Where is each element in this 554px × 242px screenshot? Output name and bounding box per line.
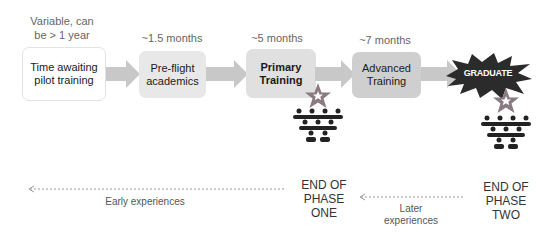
stage-box-preflight-academics: Pre-flight academics bbox=[139, 51, 206, 98]
later-line1: Later bbox=[380, 203, 442, 215]
phase-one-line2: PHASE bbox=[292, 192, 356, 206]
phase-two-line3: TWO bbox=[474, 208, 538, 222]
stage-4-label-line2: Training bbox=[362, 75, 411, 88]
stage-1-duration-line1: Variable, can bbox=[0, 14, 124, 28]
end-of-phase-two-label: END OF PHASE TWO bbox=[474, 180, 538, 222]
phase-two-line2: PHASE bbox=[474, 194, 538, 208]
later-line2: experiences bbox=[380, 215, 442, 227]
later-experiences-label: Later experiences bbox=[380, 203, 442, 227]
star-icon bbox=[304, 82, 332, 110]
stage-box-advanced-training: Advanced Training bbox=[352, 52, 421, 98]
arrow-right-icon bbox=[206, 60, 248, 88]
phase-two-line1: END OF bbox=[474, 180, 538, 194]
stage-4-duration: ~7 months bbox=[350, 33, 420, 47]
phase-one-line3: ONE bbox=[292, 206, 356, 220]
stage-2-duration: ~1.5 months bbox=[132, 31, 212, 45]
stage-4-label-line1: Advanced bbox=[362, 62, 411, 75]
people-group-icon bbox=[480, 115, 532, 151]
stage-1-duration-line2: be > 1 year bbox=[0, 28, 124, 42]
stage-1-duration: Variable, can be > 1 year bbox=[0, 14, 124, 42]
arrow-right-icon bbox=[106, 60, 140, 88]
stage-2-label-line1: Pre-flight bbox=[146, 62, 199, 75]
stage-2-label-line2: academics bbox=[146, 75, 199, 88]
stage-box-time-awaiting: Time awaiting pilot training bbox=[22, 47, 106, 101]
people-group-icon bbox=[292, 108, 344, 144]
dotted-arrow-left-icon bbox=[357, 192, 465, 202]
early-experiences-label: Early experiences bbox=[90, 196, 200, 208]
end-of-phase-one-label: END OF PHASE ONE bbox=[292, 178, 356, 220]
stage-1-label-line1: Time awaiting bbox=[30, 61, 97, 74]
stage-3-label-line2: Training bbox=[260, 74, 303, 87]
stage-3-label-line1: Primary bbox=[260, 61, 303, 74]
graduate-label: GRADUATE bbox=[456, 68, 520, 78]
dotted-arrow-left-icon bbox=[26, 184, 288, 194]
stage-1-label-line2: pilot training bbox=[30, 74, 97, 87]
phase-one-line1: END OF bbox=[292, 178, 356, 192]
stage-3-duration: ~5 months bbox=[242, 31, 312, 45]
star-icon bbox=[492, 87, 520, 115]
